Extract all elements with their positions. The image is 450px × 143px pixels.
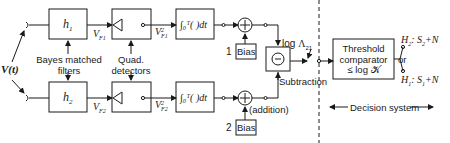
bias-1-label: Bias	[237, 46, 255, 57]
detector-top-box	[112, 9, 151, 39]
input-arrow-top	[12, 31, 24, 62]
filter-h2-label: h2	[63, 92, 73, 108]
addition-caption: (addition)	[249, 104, 289, 115]
filter-h1-sub: 1	[69, 25, 73, 33]
bias-2-label: Bias	[237, 122, 255, 133]
h1-tail: +N	[425, 74, 438, 85]
lambda-sub: 21	[305, 45, 312, 51]
output-h1-label: H1: S1+N	[401, 74, 439, 90]
filter-h2-sub: 2	[69, 98, 73, 106]
integrator-top-label: ∫₀ᵀ( )dt	[180, 19, 207, 30]
filter-h1-label: h1	[63, 19, 73, 35]
comparator-line1: Threshold	[333, 44, 394, 55]
input-signal-label: V(t)	[1, 64, 19, 75]
detectors-caption-line2: detectors	[108, 65, 154, 76]
decision-system-label: Decision system	[350, 102, 419, 113]
integrator-bottom-label: ∫₀ᵀ( )dt	[180, 92, 207, 103]
vf2-squared-label: V2F2	[155, 99, 168, 112]
comparator-line3: ≤ log 𝒦	[333, 65, 394, 76]
vf2-sub: F2	[99, 108, 106, 114]
filters-caption-line1: Bayes matched	[36, 54, 102, 65]
vf1-sub: F1	[99, 35, 106, 41]
vf2-squared-sub: F2	[161, 106, 168, 112]
bias-1-index: 1	[226, 46, 232, 57]
detectors-caption: Quad.detectors	[108, 54, 154, 76]
filters-caption: Bayes matchedfilters	[36, 54, 102, 76]
output-h2-label: H2: S2+N	[401, 34, 439, 50]
comparator-label: Threshold comparator ≤ log 𝒦	[333, 44, 394, 76]
log-ratio-label: log Λ21	[282, 38, 312, 54]
h2-rest: : S	[411, 34, 422, 45]
bias-2-index: 2	[226, 122, 232, 133]
log-prefix: log	[282, 38, 295, 49]
h1-rest: : S	[411, 74, 422, 85]
subtraction-caption: Subtraction	[279, 76, 327, 87]
detector-bottom-box	[112, 82, 151, 112]
input-arrow-bottom	[12, 80, 24, 93]
vf1-squared-label: V2F1	[155, 26, 168, 39]
vf2-label: VF2	[93, 101, 106, 117]
vf1-squared-sub: F1	[161, 33, 168, 39]
vf1-label: VF1	[93, 28, 106, 44]
filters-caption-line2: filters	[36, 65, 102, 76]
detectors-caption-line1: Quad.	[108, 54, 154, 65]
output-or-label: or	[398, 54, 406, 65]
h2-tail: +N	[425, 34, 438, 45]
